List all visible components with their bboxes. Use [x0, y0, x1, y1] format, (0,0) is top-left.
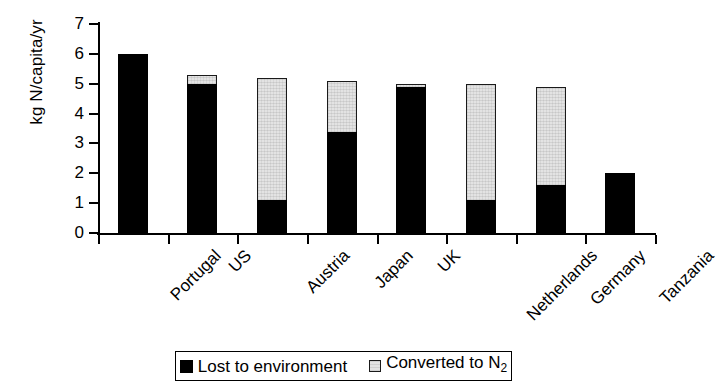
x-tick-mark: [237, 235, 239, 244]
bar-group: [585, 24, 655, 233]
y-tick-mark: [89, 113, 98, 115]
bar-japan: [327, 81, 357, 233]
x-tick-label-japan: Japan: [371, 246, 418, 293]
bar-portugal: [118, 54, 148, 233]
legend-item-lost-to-environment: Lost to environment: [180, 358, 347, 375]
bar-segment-lost-to-environment: [118, 54, 148, 233]
y-tick-label: 5: [60, 75, 84, 92]
bar-segment-converted-to-n2: [257, 78, 287, 200]
bar-segment-lost-to-environment: [605, 173, 635, 233]
y-tick-mark: [89, 202, 98, 204]
y-axis-label: kg N/capita/yr: [27, 0, 47, 167]
bar-group: [237, 24, 307, 233]
bar-segment-converted-to-n2: [466, 84, 496, 200]
y-tick-mark: [89, 172, 98, 174]
y-tick-mark: [89, 53, 98, 55]
bar-segment-lost-to-environment: [257, 200, 287, 233]
x-tick-mark: [655, 235, 657, 244]
x-tick-mark: [516, 235, 518, 244]
legend-label-converted-to-n2: Converted to N2: [386, 354, 507, 377]
x-tick-label-netherlands: Netherlands: [523, 246, 602, 325]
y-tick-mark: [89, 142, 98, 144]
x-tick-mark: [98, 235, 100, 244]
x-tick-label-us: US: [225, 246, 256, 277]
bar-group: [516, 24, 586, 233]
y-tick-label: 4: [60, 105, 84, 122]
bar-segment-converted-to-n2: [327, 81, 357, 132]
x-tick-label-austria: Austria: [303, 246, 355, 298]
chart-legend: Lost to environment Converted to N2: [175, 351, 512, 381]
bar-segment-converted-to-n2: [536, 87, 566, 186]
x-tick-mark: [307, 235, 309, 244]
legend-item-converted-to-n2: Converted to N2: [369, 354, 507, 377]
bar-germany: [536, 87, 566, 233]
y-tick-label: 3: [60, 134, 84, 151]
bar-segment-lost-to-environment: [327, 132, 357, 234]
y-tick-label: 0: [60, 224, 84, 241]
bar-segment-lost-to-environment: [187, 84, 217, 233]
bar-netherlands: [466, 84, 496, 233]
y-tick-label: 1: [60, 194, 84, 211]
x-tick-label-tanzania: Tanzania: [655, 246, 717, 308]
bar-group: [307, 24, 377, 233]
legend-swatch-grey-icon: [369, 360, 381, 372]
y-tick-label: 7: [60, 15, 84, 32]
y-tick-mark: [89, 83, 98, 85]
x-tick-mark: [446, 235, 448, 244]
bar-tanzania: [605, 173, 635, 233]
x-tick-mark: [377, 235, 379, 244]
y-tick-mark: [89, 23, 98, 25]
y-tick-label: 2: [60, 164, 84, 181]
bar-group: [377, 24, 447, 233]
bar-group: [168, 24, 238, 233]
bar-group: [446, 24, 516, 233]
bar-group: [98, 24, 168, 233]
x-tick-mark: [168, 235, 170, 244]
bar-us: [187, 75, 217, 233]
legend-label-converted-prefix: Converted to N: [386, 353, 500, 372]
bar-uk: [396, 84, 426, 233]
bar-segment-lost-to-environment: [536, 185, 566, 233]
bar-austria: [257, 78, 287, 233]
legend-label-converted-subscript: 2: [500, 362, 507, 376]
plot-area: [98, 24, 655, 233]
bar-segment-converted-to-n2: [187, 75, 217, 84]
bar-segment-lost-to-environment: [466, 200, 496, 233]
legend-label-lost-to-environment: Lost to environment: [198, 358, 347, 375]
x-tick-mark: [585, 235, 587, 244]
y-tick-mark: [89, 232, 98, 234]
x-tick-label-portugal: Portugal: [167, 246, 226, 305]
bar-segment-lost-to-environment: [396, 87, 426, 233]
x-tick-label-uk: UK: [434, 246, 465, 277]
legend-swatch-black-icon: [180, 360, 193, 373]
y-tick-label: 6: [60, 45, 84, 62]
